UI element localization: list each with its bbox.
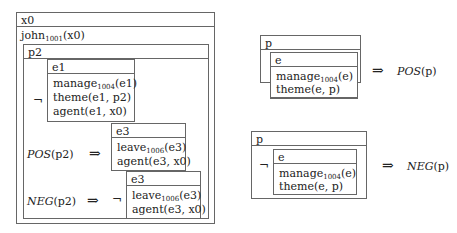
pos-result: POS(p) bbox=[397, 65, 437, 78]
drs-e1-box: e1 manage1004(e1) theme(e1, p2) agent(e1… bbox=[47, 59, 135, 122]
implies-arrow: ⇒ bbox=[372, 64, 384, 77]
drs-e1-referent: e1 bbox=[48, 60, 134, 74]
drs-x0-referent: x0 bbox=[17, 13, 214, 27]
neg-result: NEG(p) bbox=[407, 160, 449, 173]
drs-x0-box: x0 john1001(x0) p2 ¬ e1 manage1004(e1) t… bbox=[16, 12, 215, 224]
implies-arrow: ⇒ bbox=[89, 147, 101, 160]
implies-arrow: ⇒ bbox=[382, 159, 394, 172]
negation-symbol: ¬ bbox=[259, 160, 269, 173]
pos-p2-label: POS(p2) bbox=[27, 148, 74, 161]
drs-p2-box: p2 ¬ e1 manage1004(e1) theme(e1, p2) age… bbox=[23, 44, 209, 219]
drs-p2-referent: p2 bbox=[24, 45, 208, 59]
drs-e3-pos-box: e3 leave1006(e3) agent(e3, x0) bbox=[111, 123, 186, 171]
negation-symbol: ¬ bbox=[33, 95, 43, 108]
negation-symbol: ¬ bbox=[112, 194, 122, 207]
implies-arrow: ⇒ bbox=[87, 194, 99, 207]
neg-template-e-box: e manage1004(e) theme(e, p) bbox=[273, 149, 357, 195]
neg-p2-label: NEG(p2) bbox=[27, 195, 76, 208]
john-condition: john1001(x0) bbox=[21, 29, 85, 42]
drs-e3-neg-box: e3 leave1006(e3) agent(e3, x0) bbox=[126, 171, 201, 219]
neg-template-p-box: p ¬ e manage1004(e) theme(e, p) bbox=[251, 131, 367, 199]
pos-template-e-box: e manage1004(e) theme(e, p) bbox=[270, 52, 358, 98]
